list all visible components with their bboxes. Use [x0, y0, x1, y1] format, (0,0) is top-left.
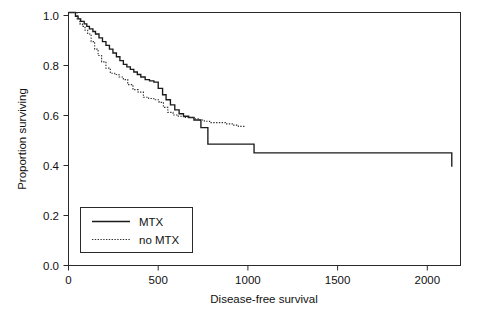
legend-label-mtx: MTX	[139, 216, 164, 228]
y-tick-label: 0.4	[43, 160, 60, 172]
y-tick-label: 0.8	[43, 60, 59, 72]
y-tick-label: 0.6	[43, 110, 59, 122]
x-tick-label: 500	[149, 274, 168, 286]
x-tick-label: 0	[65, 274, 71, 286]
x-tick-label: 1500	[325, 274, 351, 286]
x-axis-title: Disease-free survival	[210, 293, 317, 305]
chart-page: 0.0 0.2 0.4 0.6 0.8 1.0 0 500 1000 1500 …	[0, 0, 477, 319]
y-tick-label: 0.0	[43, 260, 59, 272]
x-tick-label: 2000	[415, 274, 441, 286]
y-tick-label: 0.2	[43, 210, 59, 222]
y-tick-label: 1.0	[43, 10, 59, 22]
x-tick-label: 1000	[235, 274, 261, 286]
chart-background	[0, 0, 477, 319]
y-axis-title: Proportion surviving	[16, 88, 28, 190]
legend-label-no-mtx: no MTX	[139, 234, 180, 246]
survival-curve-chart: 0.0 0.2 0.4 0.6 0.8 1.0 0 500 1000 1500 …	[0, 0, 477, 319]
